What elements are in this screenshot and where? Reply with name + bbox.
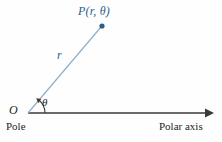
radius-label: r <box>57 49 62 61</box>
polar-axis-line <box>28 109 214 118</box>
point-marker-p <box>99 23 104 28</box>
pole-label: Pole <box>6 121 26 132</box>
point-label: P(r, θ) <box>78 5 110 17</box>
polar-coordinate-diagram: P(r, θ) r θ O Pole Polar axis <box>0 0 222 142</box>
polar-axis-arrowhead <box>205 109 214 118</box>
polar-axis-label: Polar axis <box>159 121 203 132</box>
angle-label: θ <box>42 97 47 108</box>
origin-label: O <box>9 104 18 116</box>
